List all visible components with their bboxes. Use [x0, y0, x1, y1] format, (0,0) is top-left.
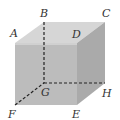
vertex-label-c: C: [102, 7, 111, 20]
vertex-label-b: B: [39, 7, 48, 20]
vertex-label-h: H: [101, 87, 112, 100]
vertex-label-a: A: [9, 27, 18, 40]
vertex-label-g: G: [41, 86, 50, 99]
vertex-label-f: F: [7, 108, 16, 120]
vertex-label-d: D: [71, 28, 81, 41]
cube-diagram: A B C D G H F E: [0, 0, 120, 120]
vertex-label-e: E: [71, 108, 80, 120]
